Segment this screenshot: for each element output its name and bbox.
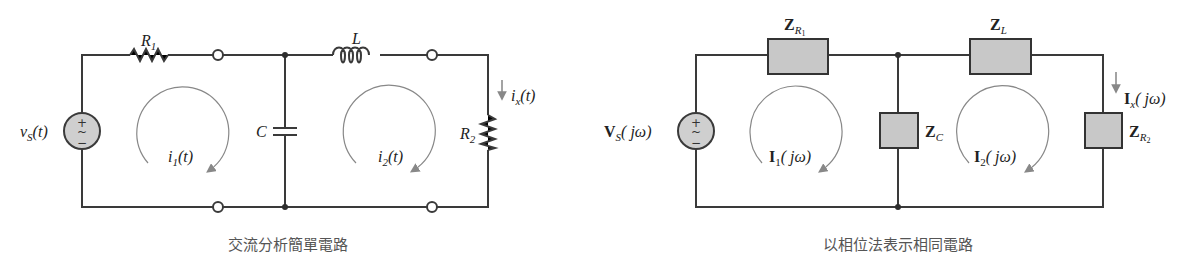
zc-label: ZC bbox=[925, 123, 944, 143]
node-dot-icon bbox=[895, 52, 901, 58]
right-caption: 以相位法表示相同電路 bbox=[823, 236, 973, 254]
resistor-r1-icon bbox=[130, 49, 168, 61]
node-dot-icon bbox=[282, 204, 288, 210]
r2-label: R2 bbox=[459, 125, 476, 145]
branch-current-label: ix(t) bbox=[511, 87, 535, 107]
terminal-icon bbox=[213, 50, 223, 60]
resistor-r2-icon bbox=[481, 115, 495, 150]
impedance-zr2-icon bbox=[1085, 113, 1122, 148]
loop1-label: I1( jω) bbox=[769, 148, 811, 168]
impedance-zc-icon bbox=[880, 113, 918, 148]
inductor-label: L bbox=[351, 30, 361, 47]
inductor-icon bbox=[333, 48, 369, 63]
circuit-figure: + ~ − vS(t) R1 L C R2 i1(t) i2(t) ix(t) … bbox=[0, 0, 1196, 273]
terminal-icon bbox=[213, 202, 223, 212]
source-label: VS( jω) bbox=[604, 123, 651, 143]
terminal-icon bbox=[427, 202, 437, 212]
node-dot-icon bbox=[895, 204, 901, 210]
svg-text:−: − bbox=[691, 136, 701, 150]
zr2-label: ZR2 bbox=[1129, 123, 1150, 145]
loop2-label: I2( jω) bbox=[974, 148, 1016, 168]
zl-label: ZL bbox=[990, 16, 1007, 36]
terminal-icon bbox=[427, 50, 437, 60]
source-label: vS(t) bbox=[20, 123, 48, 143]
right-circuit: + ~ − VS( jω) ZR1 ZL ZC ZR2 I1( jω) I2( … bbox=[604, 16, 1166, 254]
left-caption: 交流分析簡單電路 bbox=[228, 236, 348, 254]
impedance-zl-icon bbox=[970, 39, 1031, 74]
node-dot-icon bbox=[282, 52, 288, 58]
impedance-zr1-icon bbox=[768, 39, 828, 74]
loop1-label: i1(t) bbox=[168, 148, 193, 168]
loop2-label: i2(t) bbox=[378, 148, 403, 168]
capacitor-label: C bbox=[256, 123, 267, 140]
left-circuit: + ~ − vS(t) R1 L C R2 i1(t) i2(t) ix(t) … bbox=[20, 30, 535, 254]
branch-current-label: Ix( jω) bbox=[1124, 90, 1166, 110]
svg-text:−: − bbox=[77, 136, 87, 150]
zr1-label: ZR1 bbox=[784, 16, 805, 38]
r1-label: R1 bbox=[140, 32, 156, 52]
